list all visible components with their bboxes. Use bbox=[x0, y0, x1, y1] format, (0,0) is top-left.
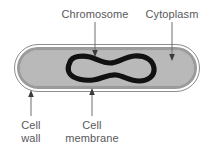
chromosome-leader bbox=[92, 22, 98, 57]
diagram-canvas: Chromosome Cytoplasm Cell wall Cell memb… bbox=[0, 0, 211, 153]
label-cytoplasm: Cytoplasm bbox=[146, 8, 199, 20]
label-cell-wall-line1: Cell bbox=[21, 119, 40, 131]
label-chromosome: Chromosome bbox=[61, 8, 128, 20]
label-cell-wall-line2: wall bbox=[20, 132, 40, 144]
cytoplasm-leader bbox=[169, 22, 175, 61]
cell-membrane-leader bbox=[89, 88, 95, 116]
label-cell-membrane-line1: Cell bbox=[82, 119, 101, 131]
cytoplasm-shape bbox=[21, 51, 194, 86]
cell-wall-leader bbox=[28, 90, 34, 116]
bacterial-cell-diagram: Chromosome Cytoplasm Cell wall Cell memb… bbox=[0, 0, 211, 153]
label-cell-membrane-line2: membrane bbox=[65, 132, 118, 144]
